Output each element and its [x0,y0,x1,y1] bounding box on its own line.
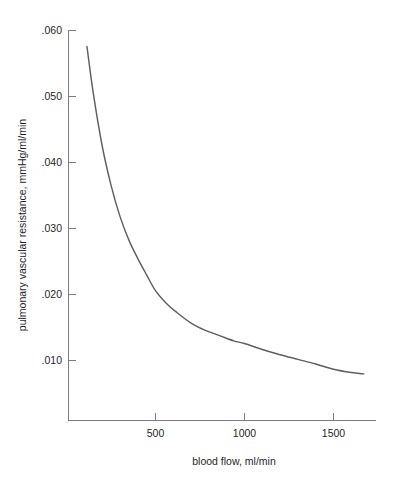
x-tick-label-1500: 1500 [322,427,346,439]
chart-background [0,0,396,482]
x-axis-title: blood flow, ml/min [192,455,276,467]
y-tick-label-010: .010 [42,354,63,366]
y-tick-label-020: .020 [42,288,63,300]
y-tick-label-030: .030 [42,222,63,234]
y-axis-title: pulmonary vascular resistance, mmHg/ml/m… [16,119,28,332]
y-tick-label-060: .060 [42,24,63,36]
chart-canvas: .060 .050 .040 .030 .020 .010 500 1000 1… [0,0,396,482]
x-tick-label-500: 500 [147,427,165,439]
y-tick-label-040: .040 [42,156,63,168]
x-tick-label-1000: 1000 [233,427,257,439]
chart-figure: .060 .050 .040 .030 .020 .010 500 1000 1… [0,0,396,482]
y-tick-label-050: .050 [42,90,63,102]
